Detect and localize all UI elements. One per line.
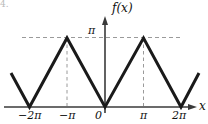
figure-container: 4. f(x) x π −2π −π 0 π 2π (0, 0, 208, 124)
x-tick-label-pos-pi: π (140, 110, 147, 121)
y-axis-name-label: f(x) (112, 2, 133, 14)
y-tick-label-pi: π (88, 25, 95, 36)
x-axis-name-label: x (199, 100, 206, 112)
x-tick-label-zero: 0 (95, 110, 102, 121)
x-axis-arrowhead (188, 104, 197, 110)
y-axis-arrowhead (102, 16, 108, 25)
plot-canvas (0, 0, 208, 124)
x-tick-label-neg-pi: −π (59, 110, 75, 121)
x-tick-label-neg-2pi: −2π (18, 110, 41, 121)
x-tick-label-pos-2pi: 2π (172, 110, 186, 121)
